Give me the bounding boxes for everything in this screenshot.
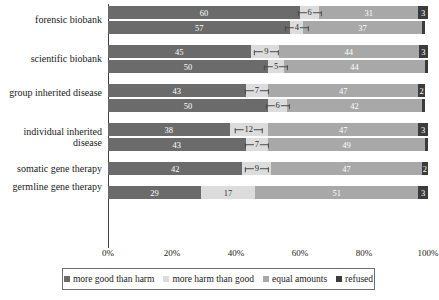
bar-row: 57374 [108,21,428,34]
bar-segment: 3 [418,6,428,19]
bar-segment: 47 [271,162,421,175]
bar-segment: 50 [108,60,268,73]
bar-row: 50445 [108,60,428,73]
segment-value: 31 [319,8,418,17]
segment-value: 47 [268,125,418,134]
bar-row: 434727 [108,84,428,97]
legend-swatch-icon [163,276,169,282]
bar-row: 603136 [108,6,428,19]
bar-segment [425,138,428,151]
segment-value-callout: 9 [245,164,269,174]
bar-segment: 50 [108,99,268,112]
segment-value: 49 [268,140,425,149]
segment-value: 3 [418,8,428,17]
bar-segment [422,21,425,34]
bar-segment: 2 [418,84,424,97]
legend-item[interactable]: refused [336,274,373,285]
bar-segment: 44 [284,60,425,73]
bar-segment: 47 [268,123,418,136]
x-axis: 0%20%40%60%80%100% [108,248,428,262]
segment-value: 43 [108,140,246,149]
segment-value: 45 [108,47,251,56]
bar-segment: 3 [418,186,428,199]
bar-row: 454439 [108,45,428,58]
bar-segment: 38 [108,123,230,136]
bar-segment: 60 [108,6,300,19]
segment-value: 2 [422,164,428,173]
bar-segment: 51 [255,186,418,199]
category-label: scientific biobank [0,53,102,65]
bar-segment: 42 [287,99,421,112]
bar-segment: 43 [108,138,246,151]
category-label: group inherited disease [0,87,102,99]
bar-segment: 47 [268,84,418,97]
bar-segment: 3 [418,123,428,136]
bar-segment: 44 [279,45,418,58]
segment-value: 47 [268,86,418,95]
segment-value: 42 [108,164,242,173]
category-label: somatic gene therapy [0,163,102,175]
segment-value: 37 [303,23,421,32]
bar-segment: 42 [108,162,242,175]
bar-segment: 49 [268,138,425,151]
segment-value: 50 [108,101,268,110]
segment-value-callout: 6 [265,101,289,111]
legend-swatch-icon [64,276,70,282]
bar-segment [422,99,425,112]
segment-value: 47 [271,164,421,173]
segment-value-callout: 9 [254,47,278,57]
x-axis-tick: 40% [228,248,245,259]
segment-value: 2 [418,86,424,95]
segment-value: 57 [108,23,290,32]
legend-label: more good than harm [73,274,155,285]
segment-value: 50 [108,62,268,71]
segment-value: 3 [418,125,428,134]
bar-segment: 45 [108,45,251,58]
bar-segment: 43 [108,84,246,97]
segment-value: 44 [284,62,425,71]
segment-value: 29 [108,188,201,197]
segment-value-callout: 5 [264,62,288,72]
segment-value-callout: 7 [245,140,269,150]
bar-row: 3847312 [108,123,428,136]
segment-value: 38 [108,125,230,134]
segment-value: 60 [108,8,300,17]
bar-segment: 37 [303,21,421,34]
segment-value: 3 [419,47,429,56]
segment-value: 17 [201,188,255,197]
segment-value-callout: 4 [285,23,309,33]
legend-label: more harm than good [172,274,254,285]
legend-label: refused [345,274,373,285]
x-axis-tick: 0% [102,248,114,259]
x-axis-tick: 60% [292,248,309,259]
bar-segment: 57 [108,21,290,34]
bar-segment: 2 [422,162,428,175]
bar-segment [425,60,428,73]
segment-value-callout: 6 [297,8,321,18]
legend-item[interactable]: equal amounts [263,274,327,285]
category-label: germline gene therapy [0,181,102,193]
bar-row: 43497 [108,138,428,151]
bar-segment: 31 [319,6,418,19]
segment-value: 44 [279,47,418,56]
chart-legend: more good than harmmore harm than goodeq… [62,268,375,290]
segment-value-callout: 7 [245,86,269,96]
legend-item[interactable]: more good than harm [64,274,155,285]
category-label: forensic biobank [0,14,102,26]
x-axis-tick: 80% [356,248,373,259]
segment-value: 43 [108,86,246,95]
segment-value: 51 [255,188,418,197]
bar-row: 424729 [108,162,428,175]
bar-segment: 17 [201,186,255,199]
bar-segment: 29 [108,186,201,199]
legend-item[interactable]: more harm than good [163,274,254,285]
segment-value: 42 [287,101,421,110]
bar-row: 2917513 [108,186,428,199]
segment-value: 3 [418,188,428,197]
legend-label: equal amounts [272,274,327,285]
bar-segment: 3 [419,45,429,58]
segment-value-callout: 12 [235,125,264,135]
legend-swatch-icon [336,276,342,282]
bar-row: 50426 [108,99,428,112]
